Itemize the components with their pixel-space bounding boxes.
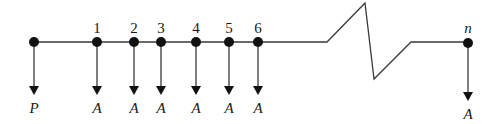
period-label: 4	[192, 20, 200, 36]
node-dot	[224, 37, 234, 47]
period-label: 6	[254, 20, 262, 36]
flow-label: A	[462, 106, 473, 122]
node-5: 5 A	[223, 20, 234, 116]
flow-label: A	[128, 100, 139, 116]
arrow-down-icon	[92, 86, 102, 95]
flow-label: A	[252, 100, 263, 116]
arrow-down-icon	[191, 86, 201, 95]
arrow-down-icon	[129, 86, 139, 95]
node-n: n A	[462, 20, 473, 122]
period-label: 5	[225, 20, 233, 36]
flow-label: P	[28, 100, 38, 116]
node-dot	[29, 37, 39, 47]
period-label: n	[464, 20, 472, 36]
arrow-down-icon	[224, 86, 234, 95]
flow-label: A	[91, 100, 102, 116]
node-1: 1 A	[91, 20, 102, 116]
node-2: 2 A	[128, 20, 139, 116]
node-dot	[253, 37, 263, 47]
node-0: P	[28, 37, 39, 116]
arrow-down-icon	[463, 92, 473, 101]
node-6: 6 A	[252, 20, 263, 116]
flow-label: A	[155, 100, 166, 116]
period-label: 2	[130, 20, 138, 36]
flow-label: A	[190, 100, 201, 116]
node-dot	[92, 37, 102, 47]
period-label: 3	[157, 20, 165, 36]
cash-flow-diagram: P 1 A 2 A 3 A 4 A 5 A	[0, 0, 501, 124]
node-4: 4 A	[190, 20, 201, 116]
node-dot	[463, 38, 473, 48]
arrow-down-icon	[156, 86, 166, 95]
node-dot	[191, 37, 201, 47]
period-label: 1	[93, 20, 101, 36]
node-dot	[129, 37, 139, 47]
arrow-down-icon	[253, 86, 263, 95]
flow-label: A	[223, 100, 234, 116]
node-3: 3 A	[155, 20, 166, 116]
node-dot	[156, 37, 166, 47]
arrow-down-icon	[29, 86, 39, 95]
